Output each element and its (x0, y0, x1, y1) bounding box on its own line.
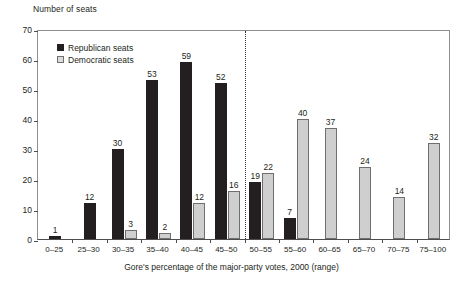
bar-value-label: 19 (250, 171, 259, 182)
x-axis-tick-mark (107, 239, 108, 243)
y-axis-tick-mark (34, 31, 38, 32)
x-axis-tick-mark (141, 239, 142, 243)
y-axis-tick-label: 70 (23, 25, 32, 35)
bar-democratic: 12 (193, 203, 205, 239)
y-axis-tick-mark (34, 91, 38, 92)
x-axis-category-label: 65–70 (353, 245, 375, 254)
x-axis-category-label: 45–50 (215, 245, 237, 254)
bar-value-label: 53 (147, 69, 156, 80)
bar-value-label: 12 (195, 192, 204, 203)
x-axis-category-label: 70–75 (387, 245, 409, 254)
x-axis-tick-mark (279, 239, 280, 243)
y-axis-tick-mark (34, 241, 38, 242)
x-axis-category-label: 40–45 (181, 245, 203, 254)
bar-value-label: 30 (113, 138, 122, 149)
bar-democratic: 16 (228, 191, 240, 239)
bar-republican: 1 (49, 236, 61, 239)
x-axis-tick-mark (313, 239, 314, 243)
bar-value-label: 2 (163, 222, 168, 233)
bar-republican: 19 (249, 182, 261, 239)
y-axis-title: Number of seats (33, 4, 97, 14)
bar-republican: 59 (180, 62, 192, 239)
bar-value-label: 1 (53, 225, 58, 236)
y-axis-tick-label: 30 (23, 145, 32, 155)
bar-value-label: 7 (287, 207, 292, 218)
y-axis-tick-mark (34, 211, 38, 212)
chart-legend: Republican seats Democratic seats (57, 42, 134, 66)
bar-democratic: 3 (125, 230, 137, 239)
x-axis-category-label: 60–65 (318, 245, 340, 254)
y-axis-tick-mark (34, 121, 38, 122)
y-axis-tick-label: 40 (23, 115, 32, 125)
legend-label-democratic: Democratic seats (68, 55, 134, 65)
y-axis-tick-mark (34, 151, 38, 152)
legend-swatch-democratic-icon (57, 56, 64, 63)
bar-value-label: 16 (229, 180, 238, 191)
bar-value-label: 12 (85, 192, 94, 203)
x-axis-tick-mark (348, 239, 349, 243)
bar-democratic: 2 (159, 233, 171, 239)
bar-democratic: 32 (428, 143, 440, 239)
x-axis-category-label: 50–55 (250, 245, 272, 254)
y-axis-tick-label: 20 (23, 175, 32, 185)
x-axis-tick-mark (417, 239, 418, 243)
bar-republican: 30 (112, 149, 124, 239)
y-axis-tick-label: 50 (23, 85, 32, 95)
y-axis-tick-label: 0 (27, 235, 32, 245)
bar-chart: Number of seats 010203040506070112303532… (0, 0, 463, 282)
bar-value-label: 3 (128, 219, 133, 230)
bar-value-label: 32 (429, 132, 438, 143)
x-axis-category-label: 0–25 (45, 245, 63, 254)
x-axis-category-label: 55–60 (284, 245, 306, 254)
bar-democratic: 22 (262, 173, 274, 239)
x-axis-category-label: 35–40 (146, 245, 168, 254)
bar-republican: 53 (146, 80, 158, 239)
bar-value-label: 24 (360, 156, 369, 167)
bar-value-label: 14 (395, 186, 404, 197)
bar-republican: 52 (215, 83, 227, 239)
bar-value-label: 52 (216, 72, 225, 83)
legend-swatch-republican-icon (57, 44, 64, 51)
legend-label-republican: Republican seats (68, 43, 133, 53)
x-axis-category-label: 75–100 (419, 245, 446, 254)
bar-value-label: 40 (298, 108, 307, 119)
bar-democratic: 14 (393, 197, 405, 239)
bar-value-label: 37 (326, 117, 335, 128)
x-axis-tick-mark (72, 239, 73, 243)
bar-republican: 7 (284, 218, 296, 239)
legend-item-republican: Republican seats (57, 42, 134, 53)
x-axis-category-label: 25–30 (78, 245, 100, 254)
x-axis-tick-mark (176, 239, 177, 243)
y-axis-tick-mark (34, 61, 38, 62)
x-axis-title: Gore's percentage of the major-party vot… (0, 262, 463, 272)
fifty-percent-divider-line (245, 31, 246, 239)
legend-item-democratic: Democratic seats (57, 54, 134, 65)
bar-value-label: 59 (182, 51, 191, 62)
y-axis-tick-mark (34, 181, 38, 182)
bar-democratic: 40 (297, 119, 309, 239)
bar-republican: 12 (84, 203, 96, 239)
x-axis-tick-mark (382, 239, 383, 243)
x-axis-tick-mark (210, 239, 211, 243)
y-axis-tick-label: 10 (23, 205, 32, 215)
bar-democratic: 24 (359, 167, 371, 239)
x-axis-tick-mark (245, 239, 246, 243)
x-axis-category-label: 30–35 (112, 245, 134, 254)
bar-value-label: 22 (263, 162, 272, 173)
y-axis-tick-label: 60 (23, 55, 32, 65)
bar-democratic: 37 (325, 128, 337, 239)
